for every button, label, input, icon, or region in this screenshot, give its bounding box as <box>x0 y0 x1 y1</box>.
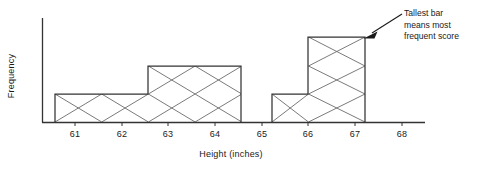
x-tick-label-68: 68 <box>382 129 422 139</box>
x-tick-label-62: 62 <box>102 129 142 139</box>
annotation-arrow <box>364 14 403 39</box>
x-tick-label-64: 64 <box>195 129 235 139</box>
histogram-figure: 61 62 63 64 65 66 67 68 Height (inches) … <box>0 0 483 176</box>
annotation-line-1: Tallest bar <box>404 8 482 20</box>
x-tick-label-67: 67 <box>335 129 375 139</box>
bar-group-right-hatch <box>272 37 365 122</box>
x-tick-label-66: 66 <box>288 129 328 139</box>
bar-outline-right-group <box>272 37 365 122</box>
x-tick-label-65: 65 <box>242 129 282 139</box>
y-axis-title: Frequency <box>6 44 16 108</box>
annotation-line-2: means most <box>404 20 482 32</box>
x-tick-label-61: 61 <box>55 129 95 139</box>
annotation-line-3: frequent score <box>404 31 482 43</box>
x-tick-label-63: 63 <box>148 129 188 139</box>
bar-outline-left-group <box>55 66 241 122</box>
x-axis-title: Height (inches) <box>156 149 306 159</box>
annotation-callout: Tallest bar means most frequent score <box>404 8 482 43</box>
